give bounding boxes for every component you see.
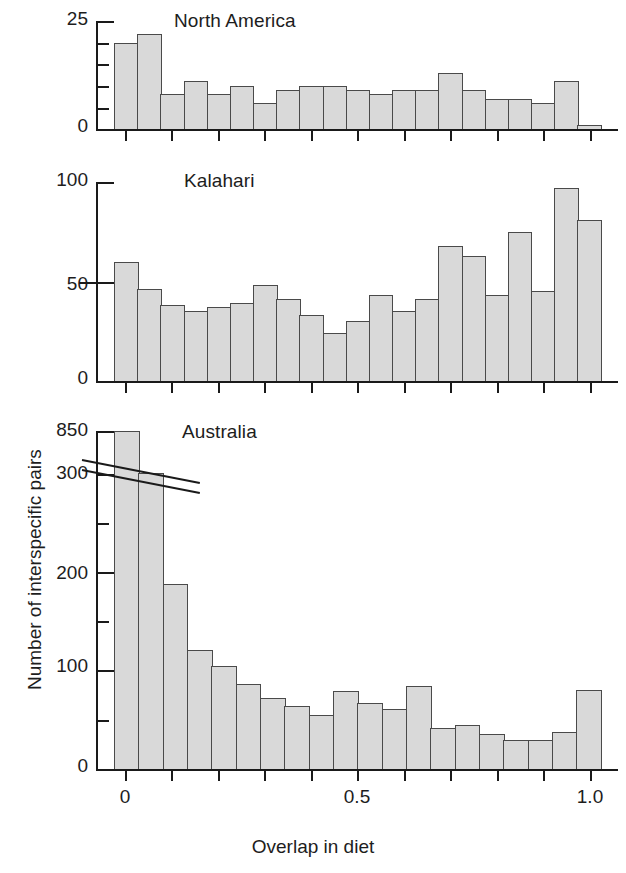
bar: [333, 691, 359, 769]
bar: [357, 703, 383, 769]
bar: [160, 305, 185, 381]
na-bar-group: [114, 21, 602, 129]
kal-x-tick: [450, 382, 452, 393]
aus-y-tick-850: [96, 431, 114, 433]
kal-x-tick: [171, 382, 173, 393]
aus-y-tick-200: [96, 572, 114, 574]
bar: [138, 473, 164, 769]
bar: [382, 709, 408, 769]
bar: [438, 246, 463, 381]
x-axis-title: Overlap in diet: [0, 836, 626, 858]
bar: [236, 684, 262, 769]
bar: [430, 728, 456, 769]
kal-y-label-100: 100: [34, 169, 88, 191]
panel-kalahari: Kalahari 100 50 0: [0, 160, 626, 390]
aus-y-label-300: 300: [20, 462, 88, 484]
bar: [276, 299, 301, 381]
na-x-tick: [264, 130, 266, 141]
kal-bar-group: [114, 182, 602, 381]
bar: [114, 431, 140, 769]
figure-histograms-overlap-in-diet: Number of interspecific pairs North Amer…: [0, 0, 626, 873]
aus-x-tick: [357, 770, 359, 781]
kal-x-tick: [125, 382, 127, 393]
bar: [160, 94, 185, 129]
bar: [230, 86, 255, 129]
aus-x-tick: [590, 770, 592, 781]
kal-y-tick-0: [96, 381, 114, 383]
kal-y-label-0: 0: [34, 367, 88, 389]
bar: [276, 90, 301, 129]
x-tick-label-0_5: 0.5: [331, 786, 383, 808]
bar: [508, 99, 533, 129]
bar: [369, 295, 394, 381]
bar: [415, 299, 440, 381]
bar: [392, 90, 417, 129]
kal-x-tick: [497, 382, 499, 393]
na-y-tick-10: [96, 86, 109, 88]
bar: [462, 256, 487, 381]
aus-x-tick: [404, 770, 406, 781]
aus-y-tick-250: [96, 523, 109, 525]
na-plot-area: [114, 21, 602, 129]
kal-plot-area: [114, 182, 602, 381]
aus-x-tick: [450, 770, 452, 781]
bar: [323, 333, 348, 381]
bar: [576, 690, 602, 769]
na-x-tick: [357, 130, 359, 141]
bar: [528, 740, 554, 769]
na-y-tick-15: [96, 64, 109, 66]
bar: [577, 220, 602, 381]
aus-y-tick-0: [96, 769, 114, 771]
bar: [211, 666, 237, 769]
bar: [187, 650, 213, 769]
bar: [415, 90, 440, 129]
aus-x-tick: [543, 770, 545, 781]
aus-y-tick-150: [96, 621, 109, 623]
bar: [284, 706, 310, 769]
bar: [323, 86, 348, 129]
na-y-label-25: 25: [46, 8, 88, 30]
na-x-tick: [311, 130, 313, 141]
bar: [114, 262, 139, 381]
bar: [479, 734, 505, 769]
aus-y-tick-100: [96, 670, 114, 672]
bar: [531, 291, 556, 381]
aus-x-tick: [125, 770, 127, 781]
kal-x-tick: [218, 382, 220, 393]
bar: [253, 285, 278, 381]
na-x-tick: [497, 130, 499, 141]
bar: [462, 90, 487, 129]
bar: [406, 686, 432, 769]
bar: [299, 86, 324, 129]
bar: [346, 90, 371, 129]
na-y-tick-5: [96, 108, 109, 110]
aus-y-tick-50: [96, 720, 109, 722]
na-y-tick-0: [96, 129, 114, 131]
aus-y-tick-300: [96, 474, 114, 476]
aus-y-label-200: 200: [20, 562, 88, 584]
bar: [554, 188, 579, 381]
panel-australia: Australia 850 300 200 100 0: [0, 405, 626, 825]
bar-final: [577, 125, 602, 129]
aus-bar-group: [114, 431, 602, 769]
na-x-tick: [218, 130, 220, 141]
kal-x-tick: [264, 382, 266, 393]
na-y-tick-25: [96, 21, 114, 23]
aus-x-tick: [311, 770, 313, 781]
na-x-tick: [450, 130, 452, 141]
kal-x-tick: [311, 382, 313, 393]
aus-y-label-0: 0: [20, 755, 88, 777]
bar: [392, 311, 417, 381]
bar: [485, 295, 510, 381]
na-x-tick: [171, 130, 173, 141]
aus-y-label-100: 100: [20, 655, 88, 677]
x-tick-label-0: 0: [99, 786, 151, 808]
na-x-tick: [543, 130, 545, 141]
bar: [184, 311, 209, 381]
aus-y-label-850: 850: [20, 419, 88, 441]
na-y-label-0: 0: [46, 115, 88, 137]
panel-north-america: North America 25 0: [0, 0, 626, 150]
kal-x-tick: [357, 382, 359, 393]
bar: [299, 315, 324, 381]
kal-y-tick-100: [96, 182, 114, 184]
